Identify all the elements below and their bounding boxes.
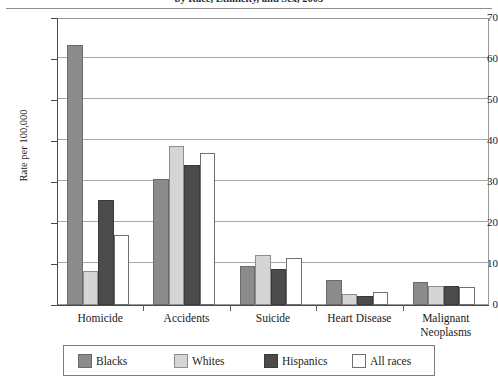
bar: [169, 146, 185, 305]
bar: [326, 280, 342, 305]
bar: [428, 286, 444, 305]
bars-layer: [57, 18, 489, 305]
legend-swatch-icon: [352, 354, 366, 368]
y-tick-mark: [51, 305, 57, 306]
bar: [373, 292, 389, 305]
bar: [98, 200, 114, 305]
x-tick-mark: [143, 305, 144, 311]
bar: [459, 287, 475, 305]
x-axis-label: Heart Disease: [316, 312, 402, 326]
bar: [271, 269, 287, 305]
title-divider: [6, 8, 492, 9]
x-tick-mark: [403, 305, 404, 311]
bar: [67, 45, 83, 305]
bar: [413, 282, 429, 305]
legend-label: Blacks: [96, 355, 127, 367]
bar-cluster: [57, 18, 143, 305]
x-axis-label: Accidents: [143, 312, 229, 326]
bar: [200, 153, 216, 305]
legend-label: Whites: [192, 355, 225, 367]
legend-label: All races: [370, 355, 411, 367]
y-axis-title: Rate per 100,000: [18, 76, 29, 216]
x-axis-label: Suicide: [230, 312, 316, 326]
bar: [357, 296, 373, 305]
bar-cluster: [403, 18, 489, 305]
chart-title: by Race, Ethnicity, and Sex, 2005: [0, 0, 498, 5]
bar: [342, 294, 358, 305]
x-axis-label: Homicide: [57, 312, 143, 326]
bar: [255, 255, 271, 305]
bar: [83, 271, 99, 305]
bar: [114, 235, 130, 305]
chart-figure: by Race, Ethnicity, and Sex, 2005 Rate p…: [0, 0, 498, 383]
bar-cluster: [316, 18, 402, 305]
bar: [184, 165, 200, 305]
chart-legend: BlacksWhitesHispanicsAll races: [63, 345, 435, 376]
legend-swatch-icon: [78, 354, 92, 368]
legend-label: Hispanics: [282, 355, 327, 367]
bar-cluster: [143, 18, 229, 305]
chart-title-clipped: by Race, Ethnicity, and Sex, 2005: [0, 0, 498, 7]
bar: [153, 179, 169, 305]
bar-cluster: [230, 18, 316, 305]
legend-swatch-icon: [174, 354, 188, 368]
bar: [240, 266, 256, 305]
x-axis-label: Malignant Neoplasms: [403, 312, 489, 339]
bar: [444, 286, 460, 305]
legend-item[interactable]: Whites: [174, 353, 225, 369]
legend-item[interactable]: All races: [352, 353, 411, 369]
x-axis-line: [57, 305, 489, 306]
x-tick-mark: [316, 305, 317, 311]
x-tick-mark: [230, 305, 231, 311]
legend-item[interactable]: Hispanics: [264, 353, 327, 369]
legend-item[interactable]: Blacks: [78, 353, 127, 369]
legend-swatch-icon: [264, 354, 278, 368]
bar: [286, 258, 302, 305]
